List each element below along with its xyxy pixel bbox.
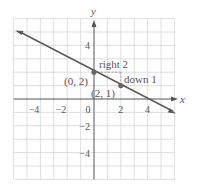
y-tick-4: 4 <box>85 40 90 51</box>
coordinate-plane: x y −4 −2 0 2 4 4 −2 −4 right 2 down 1 (… <box>0 0 199 190</box>
point-2-1 <box>118 83 123 88</box>
annotation-down-1: down 1 <box>124 73 157 85</box>
point-label-0-2: (0, 2) <box>64 75 88 88</box>
x-tick-4: 4 <box>145 104 150 115</box>
point-label-2-1: (2, 1) <box>91 87 115 100</box>
x-axis-label: x <box>179 93 185 105</box>
y-axis-arrow-icon <box>92 20 97 27</box>
annotation-right-2: right 2 <box>99 58 128 70</box>
y-tick--2: −2 <box>79 121 90 132</box>
x-tick--2: −2 <box>56 104 67 115</box>
axes <box>14 24 174 179</box>
y-tick--4: −4 <box>79 148 90 159</box>
x-tick-2: 2 <box>118 104 123 115</box>
line-arrow-left-icon <box>15 31 24 36</box>
x-tick--4: −4 <box>29 104 40 115</box>
x-tick-0: 0 <box>86 104 91 115</box>
point-0-2 <box>91 70 96 75</box>
y-axis-label: y <box>90 5 96 17</box>
